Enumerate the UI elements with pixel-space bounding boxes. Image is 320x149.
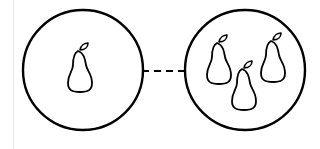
pear-icon bbox=[261, 33, 285, 82]
pear-icon bbox=[207, 35, 231, 84]
pear-icon bbox=[232, 61, 256, 110]
single-pear-circle bbox=[23, 10, 143, 130]
pear-icon bbox=[68, 43, 92, 92]
diagram-canvas bbox=[0, 0, 320, 149]
